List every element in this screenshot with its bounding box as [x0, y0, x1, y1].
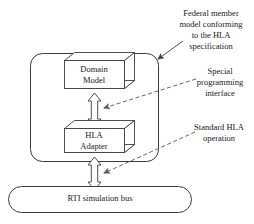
- annotation-special-interface-label: Special programming interface: [186, 66, 254, 99]
- diagram-canvas: Domain Model HLA Adapter RTI simulation …: [0, 0, 254, 224]
- adapter-to-bus-arrow: [88, 157, 101, 190]
- domain-model-box: [65, 53, 135, 89]
- hla-adapter-box: [65, 121, 135, 153]
- annotation-federal-member-label: Federal member model conforming to the H…: [168, 8, 254, 52]
- annotation-standard-operation-label: Standard HLA operation: [184, 122, 254, 144]
- rti-bus-shape: [9, 187, 192, 213]
